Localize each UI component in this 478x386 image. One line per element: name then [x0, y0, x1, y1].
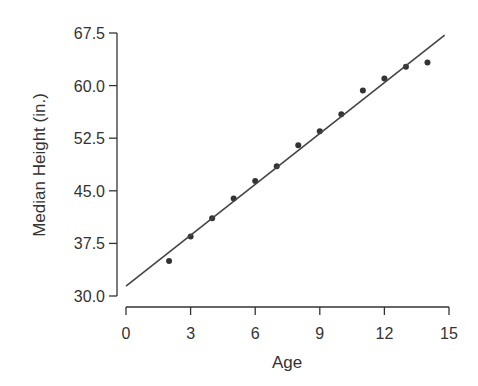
- x-axis: 03691215: [122, 307, 458, 342]
- x-tick-label: 9: [315, 325, 324, 342]
- x-tick-label: 12: [376, 325, 394, 342]
- regression-line: [126, 35, 445, 286]
- y-tick-label: 52.5: [74, 130, 105, 147]
- scatter-chart: 30.037.545.052.560.067.5 03691215 Age Me…: [0, 0, 478, 386]
- y-tick-label: 37.5: [74, 235, 105, 252]
- x-tick-label: 0: [122, 325, 131, 342]
- y-axis-title: Median Height (in.): [30, 93, 49, 237]
- data-point: [360, 88, 366, 94]
- y-tick-label: 45.0: [74, 183, 105, 200]
- data-point: [166, 258, 172, 264]
- x-axis-title: Age: [272, 353, 302, 372]
- data-point: [424, 59, 430, 65]
- data-point: [295, 142, 301, 148]
- y-tick-label: 67.5: [74, 25, 105, 42]
- y-tick-label: 30.0: [74, 288, 105, 305]
- x-tick-label: 15: [440, 325, 458, 342]
- y-tick-label: 60.0: [74, 78, 105, 95]
- plot-area: [126, 35, 445, 286]
- x-tick-label: 6: [251, 325, 260, 342]
- y-axis: 30.037.545.052.560.067.5: [74, 25, 117, 305]
- x-tick-label: 3: [186, 325, 195, 342]
